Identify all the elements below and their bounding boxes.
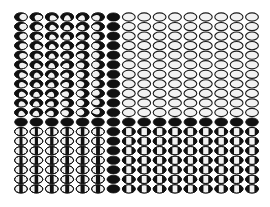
glyph-cell [138,108,151,116]
glyph-cell [215,99,228,107]
glyph-cell [122,51,135,59]
glyph-cell [215,147,228,155]
glyph-cell [153,89,166,97]
glyph-cell [138,89,151,97]
glyph-cell [169,89,182,97]
glyph-cell [15,137,28,145]
glyph-cell [153,175,166,183]
glyph-cell [230,42,243,50]
glyph-cell [169,61,182,69]
glyph-cell [122,118,135,126]
glyph-cell [230,89,243,97]
glyph-cell [15,185,28,193]
glyph-cell [30,128,43,136]
glyph-cell [122,128,135,136]
glyph-cell [138,137,151,145]
glyph-cell [215,166,228,174]
glyph-cell [215,118,228,126]
glyph-cell [45,166,58,174]
glyph-cell [246,147,259,155]
glyph-cell [122,156,135,164]
glyph-cell [76,156,89,164]
glyph-cell [122,99,135,107]
glyph-cell [153,128,166,136]
glyph-cell [15,118,28,126]
glyph-cell [169,32,182,40]
glyph-cell [215,156,228,164]
glyph-cell [107,89,120,97]
glyph-cell [199,70,212,78]
glyph-cell [76,185,89,193]
glyph-grid [0,0,270,207]
glyph-cell [122,80,135,88]
glyph-cell [92,147,105,155]
glyph-cell [76,137,89,145]
glyph-cell [45,118,58,126]
glyph-cell [107,118,120,126]
glyph-cell [76,175,89,183]
glyph-cell [230,99,243,107]
glyph-cell [15,128,28,136]
glyph-cell [138,80,151,88]
glyph-cell [61,185,74,193]
glyph-cell [169,118,182,126]
glyph-cell [230,147,243,155]
glyph-cell [92,166,105,174]
glyph-cell [76,166,89,174]
glyph-cell [153,108,166,116]
glyph-cell [184,13,197,21]
glyph-cell [184,51,197,59]
glyph-cell [199,61,212,69]
glyph-cell [215,61,228,69]
glyph-cell [230,22,243,30]
glyph-cell [153,166,166,174]
glyph-cell [45,175,58,183]
glyph-cell [107,166,120,174]
glyph-cell [107,51,120,59]
glyph-cell [246,13,259,21]
glyph-cell [215,42,228,50]
glyph-cell [153,51,166,59]
glyph-cell [169,185,182,193]
glyph-cell [153,185,166,193]
glyph-cell [30,118,43,126]
glyph-cell [122,32,135,40]
glyph-cell [153,70,166,78]
glyph-cell [230,175,243,183]
glyph-cell [169,13,182,21]
glyph-cell [153,99,166,107]
glyph-cell [215,32,228,40]
glyph-cell [184,61,197,69]
glyph-cell [230,61,243,69]
glyph-cell [169,70,182,78]
glyph-cell [107,137,120,145]
glyph-cell [199,185,212,193]
glyph-cell [30,175,43,183]
glyph-cell [107,80,120,88]
glyph-cell [215,70,228,78]
glyph-cell [92,118,105,126]
glyph-cell [246,175,259,183]
glyph-cell [15,147,28,155]
glyph-cell [122,42,135,50]
glyph-cell [107,156,120,164]
glyph-cell [138,22,151,30]
glyph-cell [169,108,182,116]
glyph-cell [107,108,120,116]
glyph-cell [107,99,120,107]
glyph-cell [246,32,259,40]
glyph-cell [199,13,212,21]
glyph-cell [76,147,89,155]
glyph-cell [61,118,74,126]
glyph-cell [215,89,228,97]
glyph-cell [230,156,243,164]
glyph-cell [138,166,151,174]
glyph-cell [246,99,259,107]
glyph-cell [138,61,151,69]
glyph-cell [230,80,243,88]
glyph-cell [138,99,151,107]
glyph-cell [169,42,182,50]
glyph-cell [122,61,135,69]
glyph-cell [107,13,120,21]
glyph-cell [215,51,228,59]
